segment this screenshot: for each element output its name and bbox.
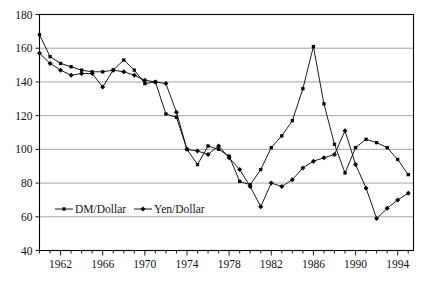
y-tick-label-60: 60: [21, 211, 33, 223]
dm-dollar-point-1972: [164, 112, 167, 115]
dm-dollar-line: [40, 35, 409, 185]
dm-dollar-point-1984: [291, 119, 294, 122]
dm-dollar-point-1962: [59, 62, 62, 65]
dm-dollar-point-1975: [196, 163, 199, 166]
y-axis-ticks: [36, 15, 40, 251]
dm-dollar-point-1963: [69, 65, 72, 68]
dm-dollar-point-1982: [270, 146, 273, 149]
dm-dollar-point-1966: [101, 70, 104, 73]
dm-dollar-point-1995: [407, 173, 410, 176]
exchange-rate-line-chart: 406080100120140160180 196219661970197419…: [0, 0, 429, 287]
axis-frame-rect: [40, 15, 414, 251]
yen-dollar-point-1983: [279, 184, 284, 189]
dm-dollar-point-1968: [122, 58, 125, 61]
yen-dollar-point-1968: [121, 69, 126, 74]
gridlines-group: [40, 48, 414, 217]
yen-dollar-point-1986: [311, 159, 316, 164]
series-yen-dollar: [37, 51, 411, 221]
legend-yen-dollar-marker: [141, 207, 146, 212]
yen-dollar-point-1962: [58, 68, 63, 73]
x-tick-label-1994: 1994: [386, 258, 409, 270]
chart-container: 406080100120140160180 196219661970197419…: [0, 0, 429, 287]
dm-dollar-point-1994: [396, 158, 399, 161]
yen-dollar-point-1973: [174, 110, 179, 115]
dm-dollar-point-1961: [48, 55, 51, 58]
x-tick-label-1974: 1974: [175, 258, 198, 270]
x-tick-label-1978: 1978: [218, 258, 241, 270]
series-dm-dollar: [38, 33, 410, 186]
yen-dollar-point-1980: [248, 184, 253, 189]
y-tick-label-120: 120: [15, 110, 33, 122]
dm-dollar-point-1981: [259, 168, 262, 171]
x-tick-label-1966: 1966: [91, 258, 114, 270]
x-tick-label-1982: 1982: [260, 258, 283, 270]
legend-label-dm-dollar: DM/Dollar: [75, 203, 126, 215]
yen-dollar-line: [40, 53, 409, 218]
dm-dollar-point-1992: [375, 141, 378, 144]
plot-frame: [40, 15, 414, 251]
yen-dollar-point-1963: [69, 73, 74, 78]
dm-dollar-point-1990: [354, 146, 357, 149]
dm-dollar-point-1969: [133, 68, 136, 71]
x-tick-label-1962: 1962: [49, 258, 72, 270]
yen-dollar-point-1995: [406, 191, 411, 196]
yen-dollar-point-1964: [79, 71, 84, 76]
yen-dollar-point-1981: [258, 204, 263, 209]
dm-dollar-point-1979: [238, 180, 241, 183]
y-tick-label-100: 100: [15, 143, 33, 155]
yen-dollar-point-1971: [153, 79, 158, 84]
yen-dollar-point-1987: [321, 155, 326, 160]
dm-dollar-point-1993: [386, 146, 389, 149]
x-tick-label-1990: 1990: [344, 258, 367, 270]
dm-dollar-point-1985: [301, 87, 304, 90]
dm-dollar-point-1960: [38, 33, 41, 36]
yen-dollar-point-1982: [269, 181, 274, 186]
dm-dollar-point-1991: [364, 138, 367, 141]
y-axis-tick-labels: 406080100120140160180: [15, 9, 33, 257]
dm-dollar-point-1976: [206, 144, 209, 147]
yen-dollar-point-1988: [332, 152, 337, 157]
yen-dollar-point-1969: [132, 73, 137, 78]
dm-dollar-point-1986: [312, 45, 315, 48]
x-tick-label-1986: 1986: [302, 258, 325, 270]
dm-dollar-point-1987: [322, 102, 325, 105]
legend-label-yen-dollar: Yen/Dollar: [154, 203, 205, 215]
yen-dollar-point-1991: [364, 186, 369, 191]
y-tick-label-80: 80: [21, 177, 33, 189]
chart-legend: DM/DollarYen/Dollar: [55, 203, 205, 215]
yen-dollar-point-1989: [343, 128, 348, 133]
yen-dollar-point-1990: [353, 162, 358, 167]
y-tick-label-140: 140: [15, 76, 33, 88]
x-tick-label-1970: 1970: [133, 258, 156, 270]
y-tick-label-180: 180: [15, 9, 33, 21]
dm-dollar-point-1989: [343, 171, 346, 174]
y-tick-label-40: 40: [21, 245, 33, 257]
dm-dollar-point-1988: [333, 143, 336, 146]
y-tick-label-160: 160: [15, 42, 33, 54]
x-axis-tick-labels: 196219661970197419781982198619901994: [49, 258, 409, 270]
dm-dollar-point-1983: [280, 134, 283, 137]
legend-dm-dollar-marker: [62, 207, 65, 210]
x-axis-ticks: [40, 251, 409, 256]
